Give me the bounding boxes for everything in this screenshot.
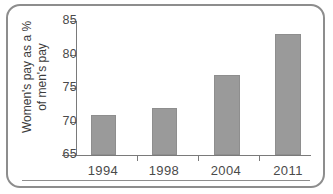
- y-tick-label-70: 70: [55, 114, 77, 128]
- x-axis-line: [62, 155, 311, 156]
- y-axis-title: Women's pay as a % of men's pay: [20, 7, 50, 147]
- y-tick-label-65: 65: [55, 147, 77, 161]
- y-axis-title-line1: Women's pay as a %: [20, 7, 35, 147]
- bar-2011: [275, 34, 301, 155]
- x-tick-3: [259, 155, 260, 161]
- bar-1994: [91, 115, 116, 155]
- x-tick-1: [137, 155, 138, 161]
- x-label-1994: 1994: [73, 163, 133, 178]
- x-tick-2: [198, 155, 199, 161]
- bar-chart: Women's pay as a % of men's pay 65 70 75…: [0, 0, 333, 194]
- x-label-1998: 1998: [134, 163, 194, 178]
- x-label-2004: 2004: [196, 163, 256, 178]
- y-tick-label-75: 75: [55, 80, 77, 94]
- x-label-2011: 2011: [258, 163, 318, 178]
- y-tick-label-85: 85: [55, 13, 77, 27]
- bar-1998: [152, 108, 177, 155]
- bottom-divider: [22, 180, 310, 181]
- bar-2004: [214, 75, 240, 155]
- y-tick-label-80: 80: [55, 47, 77, 61]
- y-axis-title-line2: of men's pay: [35, 7, 50, 147]
